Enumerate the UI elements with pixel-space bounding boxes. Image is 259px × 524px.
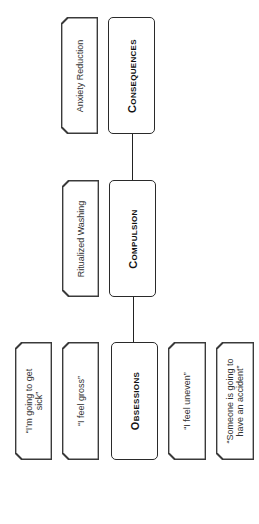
example-label: Ritualized Washing — [75, 200, 85, 277]
example-feel-uneven: “I feel uneven” — [168, 342, 206, 460]
example-label: Anxiety Reduction — [74, 39, 84, 112]
example-label: “Someone is going to have an accident” — [225, 358, 246, 443]
node-label: Compulsion — [126, 209, 139, 268]
connector-compulsion-consequences — [132, 134, 133, 180]
node-label: Consequences — [125, 39, 138, 113]
example-label: “I feel uneven” — [182, 372, 192, 430]
node-compulsion: Compulsion — [109, 180, 156, 297]
example-label: “I feel gross” — [75, 376, 85, 426]
example-going-to-get-sick: “I’m going to get sick” — [15, 342, 52, 460]
example-ritualized-washing: Ritualized Washing — [62, 180, 99, 297]
example-someone-accident: “Someone is going to have an accident” — [216, 342, 254, 460]
example-label: “I’m going to get sick” — [23, 369, 44, 434]
connector-obsessions-compulsion — [133, 296, 134, 342]
example-anxiety-reduction: Anxiety Reduction — [61, 17, 98, 134]
node-label: Obsessions — [128, 372, 141, 430]
node-consequences: Consequences — [108, 17, 155, 134]
example-feel-gross: “I feel gross” — [62, 342, 99, 460]
node-obsessions: Obsessions — [111, 342, 158, 460]
